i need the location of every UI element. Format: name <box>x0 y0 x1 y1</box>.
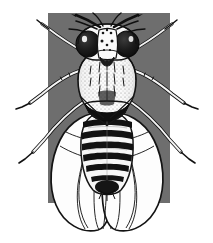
thorax-median-stripe <box>98 91 116 106</box>
eye-highlight-left <box>82 36 87 42</box>
compound-eye-left <box>76 31 100 57</box>
drosophila-illustration <box>0 0 213 243</box>
figure-root: Drosophila melanogaster dorsal view <box>0 0 213 243</box>
eye-highlight-right <box>129 36 134 42</box>
